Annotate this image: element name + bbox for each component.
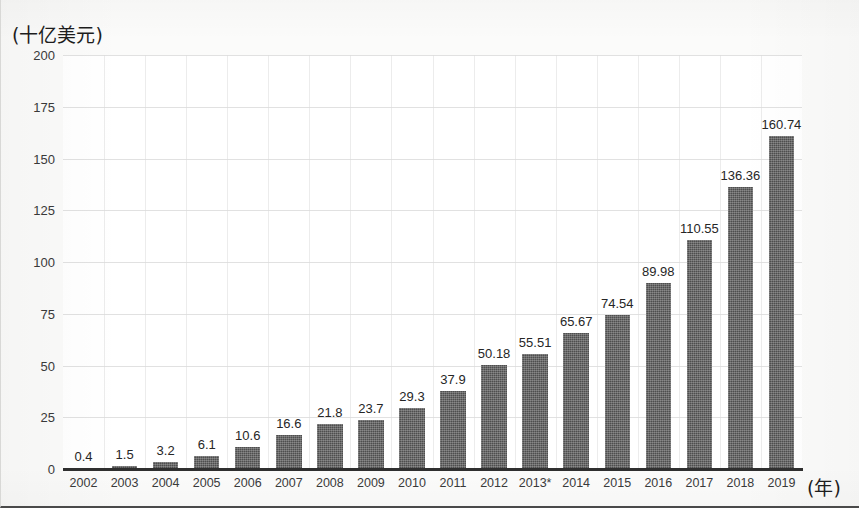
bar-column [440, 391, 465, 469]
bar-value-label: 65.67 [560, 315, 593, 328]
bar-value-label: 74.54 [601, 297, 634, 310]
bar-value-label: 89.98 [642, 265, 675, 278]
bar [481, 365, 506, 469]
plot-area: 0.41.53.26.110.616.621.823.729.337.950.1… [63, 55, 802, 469]
x-tick-label: 2018 [720, 477, 761, 490]
bar-value-label: 50.18 [478, 347, 511, 360]
y-tick-label: 50 [7, 360, 55, 373]
x-tick-label: 2002 [63, 477, 104, 490]
bar-value-label: 10.6 [235, 429, 260, 442]
x-tick-label: 2012 [474, 477, 515, 490]
bar [440, 391, 465, 469]
bar [276, 435, 301, 469]
gridline [63, 55, 802, 56]
x-tick-label: 2016 [638, 477, 679, 490]
bar-column [235, 447, 260, 469]
y-axis-title: (十亿美元) [12, 20, 103, 47]
bar-column [522, 354, 547, 469]
x-tick-label: 2013* [515, 477, 556, 490]
gridline [63, 210, 802, 211]
gridline [63, 159, 802, 160]
bar-value-label: 0.4 [74, 450, 92, 463]
y-tick-label: 0 [7, 463, 55, 476]
x-tick-label: 2005 [186, 477, 227, 490]
bar [522, 354, 547, 469]
bar [235, 447, 260, 469]
x-tick-label: 2008 [309, 477, 350, 490]
bar-value-label: 160.74 [762, 118, 802, 131]
bar-column [605, 315, 630, 469]
bar-column [563, 333, 588, 469]
bar-column [317, 424, 342, 469]
y-tick-label: 125 [7, 204, 55, 217]
bar-value-label: 3.2 [157, 444, 175, 457]
y-tick-label: 75 [7, 308, 55, 321]
bar-value-label: 37.9 [440, 373, 465, 386]
bar-value-label: 23.7 [358, 402, 383, 415]
bar-column [728, 187, 753, 469]
x-tick-label: 2010 [391, 477, 432, 490]
x-tick-label: 2019 [761, 477, 802, 490]
x-axis-title: (年) [807, 473, 841, 500]
x-tick-label: 2011 [433, 477, 474, 490]
x-tick-label: 2006 [227, 477, 268, 490]
bar-column [646, 283, 671, 469]
bar-value-label: 1.5 [116, 448, 134, 461]
bar-column [687, 240, 712, 469]
bar-value-label: 110.55 [680, 222, 719, 235]
bar-column [399, 408, 424, 469]
x-tick-label: 2014 [556, 477, 597, 490]
y-tick-label: 175 [7, 101, 55, 114]
bar-value-label: 55.51 [519, 336, 552, 349]
bar-value-label: 16.6 [276, 417, 301, 430]
bar-value-label: 29.3 [399, 390, 424, 403]
bar-column [358, 420, 383, 469]
bar [563, 333, 588, 469]
bar-value-label: 6.1 [198, 438, 216, 451]
bar-value-label: 136.36 [721, 169, 761, 182]
bar [728, 187, 753, 469]
bar [687, 240, 712, 469]
x-tick-label: 2007 [268, 477, 309, 490]
bar-chart-figure: (十亿美元) 0255075100125150175200 0.41.53.26… [0, 0, 859, 508]
y-tick-label: 25 [7, 411, 55, 424]
x-tick-label: 2015 [597, 477, 638, 490]
gridline [63, 107, 802, 108]
x-tick-label: 2003 [104, 477, 145, 490]
bar [769, 136, 794, 469]
bar [358, 420, 383, 469]
bar [605, 315, 630, 469]
x-axis-line [63, 468, 803, 471]
bar [317, 424, 342, 469]
y-axis-tick-labels: 0255075100125150175200 [1, 55, 55, 469]
x-tick-label: 2017 [679, 477, 720, 490]
y-tick-label: 100 [7, 256, 55, 269]
bar-value-label: 21.8 [317, 406, 342, 419]
bar-column [481, 365, 506, 469]
bar-column [276, 435, 301, 469]
bar-column [769, 136, 794, 469]
x-tick-label: 2009 [350, 477, 391, 490]
bar [646, 283, 671, 469]
y-tick-label: 150 [7, 153, 55, 166]
bar [399, 408, 424, 469]
x-tick-label: 2004 [145, 477, 186, 490]
y-tick-label: 200 [7, 49, 55, 62]
